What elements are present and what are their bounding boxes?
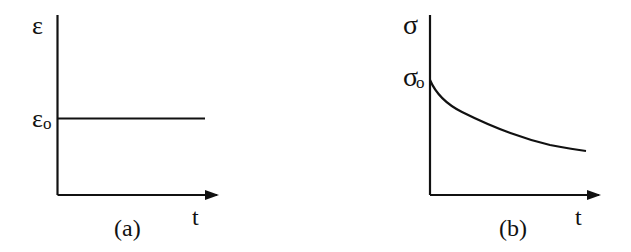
panel-a-y-level-label: εo: [32, 104, 51, 133]
panel-a-y-level-subscript: o: [43, 114, 52, 133]
panel-b-y-level-label: σo: [403, 61, 425, 92]
figure-canvas: ε εo t (a) σ σo t (b): [0, 0, 631, 252]
panel-a-caption: (a): [114, 215, 141, 241]
panel-b: σ σo t (b): [403, 9, 599, 241]
panel-b-y-level-subscript: o: [416, 73, 425, 92]
panel-a-y-axis-label: ε: [32, 11, 43, 40]
panel-a: ε εo t (a): [32, 11, 217, 241]
panel-b-y-axis-label: σ: [403, 9, 418, 40]
panel-b-x-axis-label: t: [575, 204, 582, 230]
panel-b-stress-relaxation-curve: [430, 80, 586, 151]
panel-a-x-axis-label: t: [192, 204, 199, 230]
panel-b-caption: (b): [499, 215, 527, 241]
panel-a-y-level-symbol: ε: [32, 104, 43, 133]
